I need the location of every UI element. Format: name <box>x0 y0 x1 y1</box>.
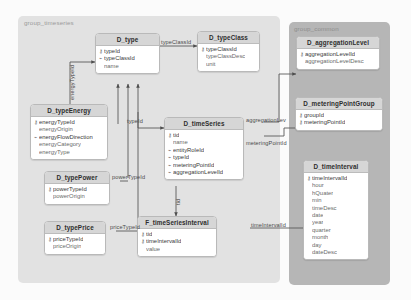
field-row: ⚷ energyTypeId <box>34 119 104 126</box>
table-body-d-aggregation-level: ⚷ aggregationLevelId aggregationLevelDes… <box>297 49 379 69</box>
field-row: ⚷ typeClassId <box>201 46 256 53</box>
field-row: ⌁ meteringPointId <box>168 162 240 169</box>
table-header-d-type-energy: D_typeEnergy <box>31 105 107 117</box>
table-header-d-type: D_type <box>96 34 159 46</box>
table-body-d-time-series: ⚷ tid name ⌁ entityRoleId ⌁ typeId ⌁ met… <box>165 130 243 179</box>
field-label: aggregationLevelDesc <box>305 58 364 65</box>
table-header-d-time-series: D_timeSeries <box>165 118 243 130</box>
field-label: unit <box>206 61 216 68</box>
table-body-d-type: ⚷ typeId ⌁ typeClassId name <box>96 46 159 73</box>
field-row: aggregationLevelDesc <box>300 58 376 65</box>
field-label: value <box>146 246 160 253</box>
table-d-type-power[interactable]: D_typePower ⚷ powerTypeId powerOrigin <box>44 171 110 205</box>
field-row: powerOrigin <box>48 193 106 200</box>
table-d-aggregation-level[interactable]: D_aggregationLevel ⚷ aggregationLevelId … <box>296 36 380 70</box>
field-label: tid <box>173 132 179 139</box>
field-label: hour <box>312 182 324 189</box>
table-d-time-interval[interactable]: D_timeInterval ⚷ timeIntervalId hour hQu… <box>303 160 369 260</box>
field-row: timeDesc <box>307 205 365 212</box>
field-label: powerTypeId <box>53 186 87 193</box>
field-row: ⚷ timeIntervalId <box>141 238 213 245</box>
field-label: month <box>312 234 328 241</box>
field-label: year <box>312 219 323 226</box>
field-label: energyFlowDirection <box>39 134 93 141</box>
field-row: dateDesc <box>307 249 365 256</box>
field-label: timeDesc <box>312 205 337 212</box>
edge-label-type-id: typeId <box>127 118 143 124</box>
field-label: name <box>173 139 188 146</box>
field-label: timeIntervalId <box>146 238 181 245</box>
field-label: dateDesc <box>312 249 337 256</box>
field-row: name <box>168 139 240 146</box>
field-label: date <box>312 212 323 219</box>
field-row: name <box>99 63 156 70</box>
group-label-timeseries: group_timeseries <box>24 19 74 26</box>
table-d-type[interactable]: D_type ⚷ typeId ⌁ typeClassId name <box>95 33 160 74</box>
field-row: ⌁ typeId <box>168 154 240 161</box>
edge-label-power-type-id: powerTypeId <box>112 174 145 180</box>
field-row: month <box>307 234 365 241</box>
field-label: quarter <box>312 227 331 234</box>
table-header-d-type-class: D_typeClass <box>198 32 259 44</box>
field-label: energyCategory <box>39 141 81 148</box>
group-label-common: group_common <box>294 25 339 32</box>
field-label: name <box>104 63 119 70</box>
table-body-d-type-energy: ⚷ energyTypeId energyOrigin ⌁ energyFlow… <box>31 117 107 159</box>
table-d-time-series[interactable]: D_timeSeries ⚷ tid name ⌁ entityRoleId ⌁… <box>164 117 244 180</box>
table-header-f-time-series-interval: F_timeSeriesInterval <box>138 217 216 229</box>
field-row: ⚷ groupId <box>299 112 379 119</box>
field-label: meteringPointId <box>304 119 345 126</box>
table-body-d-type-power: ⚷ powerTypeId powerOrigin <box>45 184 109 204</box>
field-row: ⚷ priceTypeId <box>48 236 102 243</box>
field-row: ⚷ aggregationLevelId <box>300 51 376 58</box>
table-header-d-aggregation-level: D_aggregationLevel <box>297 37 379 49</box>
table-header-d-metering-point-group: D_meteringPointGroup <box>296 98 382 110</box>
field-label: typeId <box>173 154 189 161</box>
table-header-d-type-price: D_typePrice <box>45 222 105 234</box>
table-d-type-energy[interactable]: D_typeEnergy ⚷ energyTypeId energyOrigin… <box>30 104 108 160</box>
edge-label-price-type-id: priceTypeId <box>110 224 140 230</box>
field-label: aggregationLevelId <box>305 51 355 58</box>
field-row: day <box>307 242 365 249</box>
field-label: energyOrigin <box>39 126 73 133</box>
table-d-type-class[interactable]: D_typeClass ⚷ typeClassId typeClassDesc … <box>197 31 260 72</box>
field-row: ⌁ typeClassId <box>99 55 156 62</box>
field-row: min <box>307 197 365 204</box>
field-label: groupId <box>304 112 324 119</box>
table-body-d-time-interval: ⚷ timeIntervalId hour hQuater min timeDe… <box>304 173 368 259</box>
field-row: ⚷ tid <box>141 231 213 238</box>
field-label: typeClassId <box>104 55 135 62</box>
field-label: energyType <box>39 149 70 156</box>
edge-label-metering-point-id: meteringPointId <box>246 140 287 146</box>
field-row: ⌁ aggregationLevelId <box>168 169 240 176</box>
field-label: hQuater <box>312 190 333 197</box>
field-row: hQuater <box>307 190 365 197</box>
edge-label-tid: tid <box>175 199 181 205</box>
field-row: energyCategory <box>34 141 104 148</box>
field-row: ⚷ meteringPointId <box>299 119 379 126</box>
table-body-d-type-class: ⚷ typeClassId typeClassDesc unit <box>198 44 259 71</box>
table-f-time-series-interval[interactable]: F_timeSeriesInterval ⚷ tid ⚷ timeInterva… <box>137 216 217 257</box>
table-d-metering-point-group[interactable]: D_meteringPointGroup ⚷ groupId ⚷ meterin… <box>295 97 383 131</box>
field-row: date <box>307 212 365 219</box>
field-row: year <box>307 219 365 226</box>
field-label: timeIntervalId <box>312 175 347 182</box>
field-row: typeClassDesc <box>201 53 256 60</box>
field-row: value <box>141 246 213 253</box>
edge-label-time-interval-id: timeIntervalId <box>251 222 286 228</box>
table-d-type-price[interactable]: D_typePrice ⚷ priceTypeId priceOrigin <box>44 221 106 255</box>
field-row: unit <box>201 61 256 68</box>
table-body-d-metering-point-group: ⚷ groupId ⚷ meteringPointId <box>296 110 382 130</box>
field-row: ⚷ timeIntervalId <box>307 175 365 182</box>
field-label: entityRoleId <box>173 147 204 154</box>
field-label: priceTypeId <box>53 236 83 243</box>
field-row: ⌁ energyFlowDirection <box>34 134 104 141</box>
field-row: energyType <box>34 149 104 156</box>
field-label: typeId <box>104 48 120 55</box>
field-label: energyTypeId <box>39 119 75 126</box>
field-row: ⚷ tid <box>168 132 240 139</box>
field-label: meteringPointId <box>173 162 214 169</box>
table-body-f-time-series-interval: ⚷ tid ⚷ timeIntervalId value <box>138 229 216 256</box>
field-label: priceOrigin <box>53 243 81 250</box>
field-label: aggregationLevelId <box>173 169 223 176</box>
